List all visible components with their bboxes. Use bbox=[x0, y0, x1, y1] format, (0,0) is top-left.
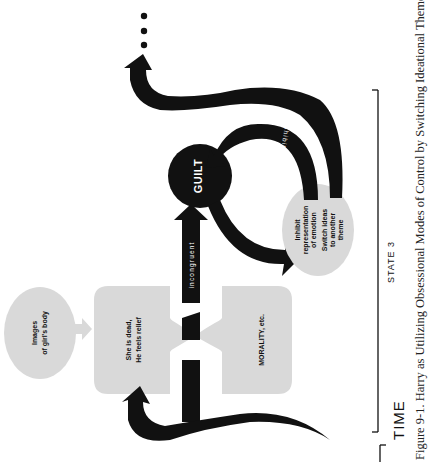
node-images-of-girls-body: Images of girl's body bbox=[4, 287, 92, 379]
relief-label-1: She is dead, bbox=[125, 320, 133, 361]
node-defense: Inhibit representation of emotion Switch… bbox=[282, 184, 354, 276]
images-label-2: of girl's body bbox=[41, 311, 49, 355]
diagram-canvas: Images of girl's body She is dead, He fe… bbox=[0, 0, 433, 463]
incongruent-label: incongruent bbox=[188, 241, 196, 288]
defense-label-6: theme bbox=[337, 220, 344, 241]
state-label: STATE 3 bbox=[386, 241, 396, 283]
time-label: TIME bbox=[390, 400, 407, 440]
defense-label-5: to another bbox=[329, 213, 336, 247]
relief-label-2: He feels relief bbox=[135, 317, 142, 363]
morality-label: MORALITY, etc. bbox=[258, 314, 266, 366]
defense-label-3: of emotion bbox=[310, 212, 317, 248]
defense-label-1: Inhibit bbox=[294, 219, 301, 241]
defense-label-2: representation bbox=[302, 206, 310, 255]
defense-label-4: Switch ideas bbox=[321, 209, 328, 252]
edge-incongruent: incongruent bbox=[174, 204, 208, 422]
guilt-label: GUILT bbox=[192, 159, 204, 194]
images-label-1: Images bbox=[31, 321, 39, 345]
edge-incoming-to-relief bbox=[122, 386, 330, 441]
figure-caption: Figure 9-1. Harry as Utilizing Obsession… bbox=[413, 0, 427, 460]
arrow-images-to-relief-icon bbox=[74, 318, 92, 340]
continuation-dots-icon bbox=[141, 13, 147, 48]
time-axis: STATE 3 TIME bbox=[372, 90, 407, 462]
